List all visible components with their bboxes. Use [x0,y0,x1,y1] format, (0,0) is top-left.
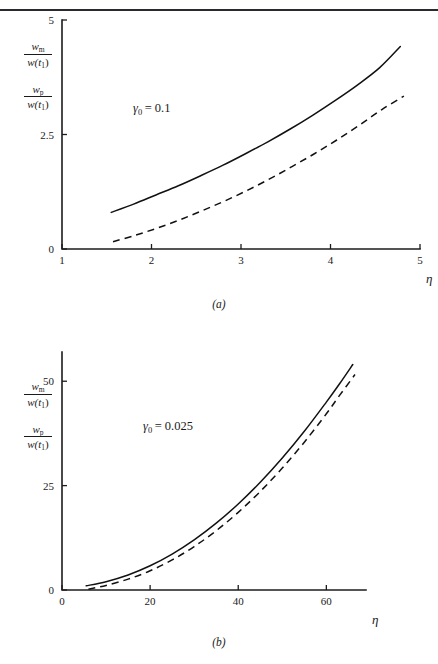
y-axis-label-a: wm w(t1) wp w(t1) [14,40,62,112]
fraction-denominator: w(t1) [24,395,51,409]
y-axis-tick-label: 0 [49,584,55,596]
panel-caption-b: (b) [0,636,438,648]
x-axis-tick-label: 20 [145,595,157,607]
data-curve-solid [111,47,400,213]
label-spacer [14,70,62,83]
plot-area-b: 025500204060ηγ0 = 0.025 [0,344,438,644]
fraction-denominator: w(t1) [24,55,51,69]
x-axis-tick-label: 0 [59,595,65,607]
x-axis-tick-label: 3 [238,254,244,266]
axis-lines [62,20,420,249]
x-axis-name: η [372,612,378,627]
fraction-denominator: w(t1) [24,437,51,451]
fraction-wp-over-wt1-b: wp w(t1) [24,423,51,451]
axis-lines [62,352,366,590]
fraction-numerator: wp [24,83,51,98]
label-spacer [14,410,62,423]
y-axis-tick-label: 0 [49,243,55,255]
x-axis-tick-label: 40 [233,595,245,607]
data-curve-dashed [88,375,355,590]
x-axis-tick-label: 1 [59,254,65,266]
data-curve-solid [86,365,353,586]
header-rule [0,9,438,11]
x-axis-tick-label: 5 [417,254,423,266]
y-axis-label-b: wm w(t1) wp w(t1) [14,380,62,452]
plot-area-a: 02.5512345ηγ0 = 0.1 [0,14,438,304]
y-axis-tick-label: 5 [49,14,55,26]
x-axis-tick-label: 4 [328,254,334,266]
fraction-wp-over-wt1-a: wp w(t1) [24,83,51,111]
y-axis-tick-label: 25 [43,480,55,492]
fraction-wm-over-wt1-a: wm w(t1) [24,40,51,68]
x-axis-tick-label: 2 [149,254,155,266]
data-curve-dashed [113,96,404,242]
x-axis-tick-label: 60 [321,595,333,607]
chart-panel-b: wm w(t1) wp w(t1) 025500204060ηγ0 = 0.02… [0,344,438,654]
chart-panel-a: wm w(t1) wp w(t1) 02.5512345ηγ0 = 0.1 [0,14,438,314]
x-axis-name: η [426,271,432,286]
gamma-annotation: γ0 = 0.025 [143,419,193,435]
fraction-denominator: w(t1) [24,97,51,111]
fraction-wm-over-wt1-b: wm w(t1) [24,380,51,408]
y-axis-tick-label: 2.5 [40,129,54,141]
fraction-numerator: wm [24,40,51,55]
fraction-numerator: wp [24,423,51,438]
panel-caption-a: (a) [0,298,438,310]
gamma-annotation: γ0 = 0.1 [133,101,171,117]
figure-page: wm w(t1) wp w(t1) 02.5512345ηγ0 = 0.1 (a… [0,0,438,664]
fraction-numerator: wm [24,380,51,395]
